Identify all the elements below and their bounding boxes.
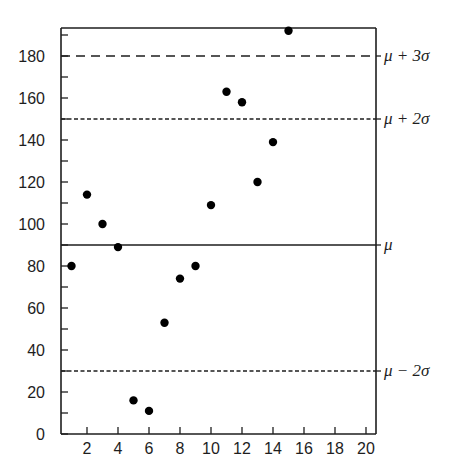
y-tick-label: 120: [18, 174, 45, 191]
data-point: [222, 88, 230, 96]
data-point: [160, 319, 168, 327]
x-tick-label: 20: [357, 440, 375, 457]
data-point: [67, 262, 75, 270]
y-tick-label: 40: [27, 342, 45, 359]
reference-label: μ + 3σ: [383, 46, 430, 65]
reference-label: μ: [383, 235, 393, 254]
data-point: [269, 138, 277, 146]
x-axis: 2468101214161820: [83, 427, 375, 457]
data-point: [129, 396, 137, 404]
x-tick-label: 10: [202, 440, 220, 457]
data-point: [145, 407, 153, 415]
data-point: [253, 178, 261, 186]
x-tick-label: 14: [264, 440, 282, 457]
data-point: [114, 243, 122, 251]
control-chart: 2468101214161820 02040608010012014016018…: [0, 0, 458, 474]
plot-frame: [61, 28, 376, 434]
y-tick-label: 140: [18, 132, 45, 149]
reference-labels: μ + 3σμ + 2σμμ − 2σ: [383, 46, 430, 380]
x-tick-label: 12: [233, 440, 251, 457]
y-tick-label: 20: [27, 384, 45, 401]
data-point: [207, 201, 215, 209]
data-point: [238, 98, 246, 106]
x-tick-label: 18: [326, 440, 344, 457]
y-tick-label: 180: [18, 48, 45, 65]
data-point: [83, 190, 91, 198]
x-tick-label: 8: [176, 440, 185, 457]
x-tick-label: 2: [83, 440, 92, 457]
x-tick-label: 4: [114, 440, 123, 457]
y-tick-label: 0: [36, 426, 45, 443]
y-tick-label: 160: [18, 90, 45, 107]
data-point: [284, 27, 292, 35]
data-point: [98, 220, 106, 228]
x-tick-label: 6: [145, 440, 154, 457]
x-tick-label: 16: [295, 440, 313, 457]
data-points: [67, 27, 292, 415]
reference-lines: [61, 56, 381, 371]
data-point: [191, 262, 199, 270]
y-tick-label: 60: [27, 300, 45, 317]
y-tick-label: 80: [27, 258, 45, 275]
y-tick-label: 100: [18, 216, 45, 233]
data-point: [176, 274, 184, 282]
reference-label: μ + 2σ: [383, 109, 430, 128]
reference-label: μ − 2σ: [383, 361, 430, 380]
